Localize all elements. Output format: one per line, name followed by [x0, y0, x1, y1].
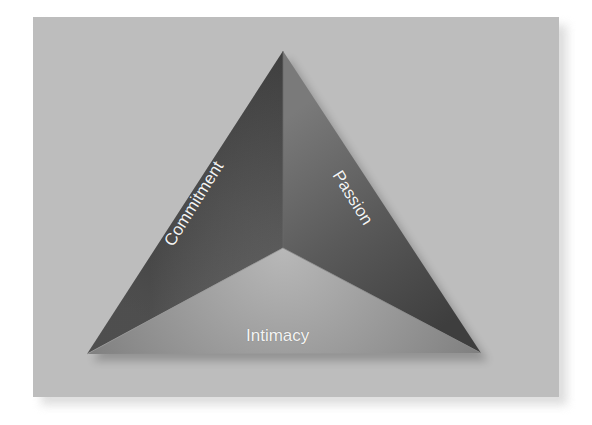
intimacy-label: Intimacy [246, 326, 309, 346]
triangle-diagram [0, 0, 592, 425]
